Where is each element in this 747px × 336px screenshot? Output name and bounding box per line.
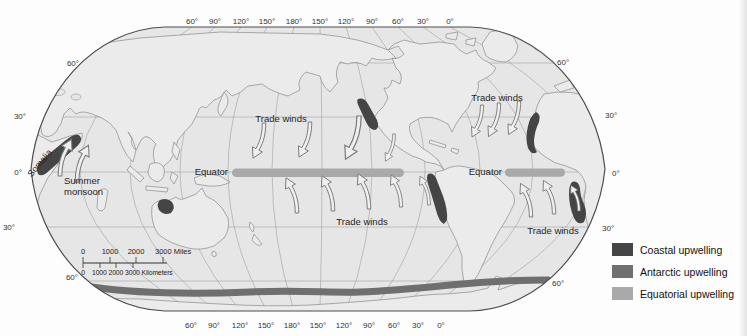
lon-top-60e: 60°	[186, 17, 198, 26]
lon-top-90e: 90°	[209, 17, 221, 26]
land-scandinavia	[590, 32, 620, 52]
land-tasmania	[212, 252, 216, 257]
lon-top-150e: 150°	[259, 17, 276, 26]
lon-bot-60w: 60°	[388, 321, 400, 330]
inland-sea-caspian	[51, 89, 65, 96]
lat-left-30s: 30°	[3, 223, 15, 232]
label-summer-monsoon-line2: monsoon	[64, 186, 103, 197]
lon-top-120e: 120°	[233, 17, 250, 26]
lon-bot-150e: 150°	[258, 321, 275, 330]
lat-left-0: 0°	[14, 168, 22, 177]
legend-label-equatorial: Equatorial upwelling	[640, 288, 734, 300]
lon-bot-150w: 150°	[310, 321, 327, 330]
label-summer-monsoon-line1: Summer	[64, 175, 100, 186]
longitude-labels-bottom: 60° 90° 120° 150° 180° 150° 120° 90° 60°…	[185, 321, 445, 330]
label-equator-atlantic: Equator	[469, 166, 502, 177]
scale-miles-3000: 3000 Miles	[155, 247, 192, 256]
label-trade-winds-south-pacific: Trade winds	[336, 216, 388, 227]
legend: Coastal upwelling Antarctic upwelling Eq…	[612, 243, 734, 300]
lon-top-150w: 150°	[312, 17, 329, 26]
upwelling-map-svg: Trade winds Trade winds Trade winds Trad…	[0, 0, 747, 336]
legend-swatch-antarctic	[612, 265, 633, 278]
scale-miles-0: 0	[81, 247, 85, 256]
lon-bot-90w: 90°	[363, 321, 375, 330]
label-trade-winds-south-atlantic: Trade winds	[527, 225, 579, 236]
lat-left-60s: 60°	[66, 273, 78, 282]
equatorial-upwelling-atlantic	[505, 169, 565, 177]
label-equator-pacific: Equator	[195, 166, 228, 177]
lon-top-120w: 120°	[338, 17, 355, 26]
legend-swatch-equatorial	[612, 287, 633, 300]
longitude-labels-top: 60° 90° 120° 150° 180° 150° 120° 90° 60°…	[186, 17, 454, 26]
lat-left-30n: 30°	[14, 112, 26, 121]
inland-sea-aral	[71, 94, 81, 100]
lon-bot-60e: 60°	[185, 321, 197, 330]
label-trade-winds-north-atlantic: Trade winds	[471, 92, 523, 103]
page-edge-shading	[739, 0, 747, 336]
lon-bot-120w: 120°	[336, 321, 353, 330]
scale-miles-1000: 1000	[102, 247, 119, 256]
lat-right-60n: 60°	[557, 58, 569, 67]
legend-item-antarctic: Antarctic upwelling	[612, 265, 728, 278]
lon-top-60w: 60°	[392, 17, 404, 26]
legend-swatch-coastal	[612, 243, 633, 256]
lon-bot-120e: 120°	[232, 321, 249, 330]
label-trade-winds-north-pacific: Trade winds	[255, 113, 307, 124]
figure-upwelling-world-map: Trade winds Trade winds Trade winds Trad…	[0, 0, 747, 336]
legend-item-equatorial: Equatorial upwelling	[612, 287, 734, 300]
scale-km-labels: 1000 2000 3000 Kilometers	[92, 269, 173, 276]
lat-right-30n: 30°	[605, 111, 617, 120]
lon-top-30w: 30°	[417, 17, 429, 26]
lon-top-90w: 90°	[366, 17, 378, 26]
lat-left-60n: 60°	[67, 59, 79, 68]
legend-label-coastal: Coastal upwelling	[640, 244, 722, 256]
lon-bot-180: 180°	[284, 321, 301, 330]
lat-right-0: 0°	[612, 169, 620, 178]
equatorial-upwelling-bands	[232, 169, 565, 178]
equatorial-upwelling-pacific	[232, 169, 404, 178]
lon-bot-0: 0°	[437, 321, 445, 330]
lon-top-180: 180°	[286, 17, 303, 26]
lat-right-60s: 60°	[552, 279, 564, 288]
lon-top-0: 0°	[446, 17, 454, 26]
lon-bot-30w: 30°	[412, 321, 424, 330]
legend-label-antarctic: Antarctic upwelling	[640, 266, 728, 278]
scale-miles-2000: 2000	[128, 247, 145, 256]
lat-right-30s: 30°	[602, 224, 614, 233]
scale-km-0: 0	[81, 269, 85, 276]
legend-item-coastal: Coastal upwelling	[612, 243, 722, 256]
lon-bot-90e: 90°	[208, 321, 220, 330]
land-europe	[566, 58, 620, 78]
